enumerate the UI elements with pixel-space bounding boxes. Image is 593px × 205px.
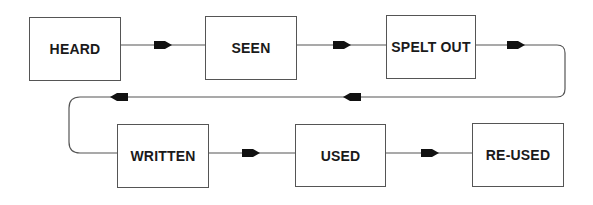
node-spelt-out: SPELT OUT	[386, 15, 476, 79]
node-used: USED	[295, 124, 386, 187]
arrow-right-icon	[421, 149, 439, 157]
arrow-left-icon	[110, 93, 128, 101]
arrow-right-icon	[333, 41, 351, 49]
node-label: WRITTEN	[130, 148, 195, 164]
node-seen: SEEN	[205, 16, 297, 80]
node-label: SEEN	[232, 40, 271, 56]
node-label: SPELT OUT	[391, 39, 470, 55]
node-re-used: RE-USED	[472, 123, 564, 187]
node-label: HEARD	[50, 41, 101, 57]
arrow-right-icon	[154, 41, 172, 49]
node-label: USED	[321, 148, 361, 164]
node-label: RE-USED	[486, 147, 550, 163]
arrow-left-icon	[343, 93, 361, 101]
node-written: WRITTEN	[117, 124, 209, 188]
arrow-right-icon	[242, 149, 260, 157]
arrow-right-icon	[507, 41, 525, 49]
node-heard: HEARD	[29, 17, 121, 81]
